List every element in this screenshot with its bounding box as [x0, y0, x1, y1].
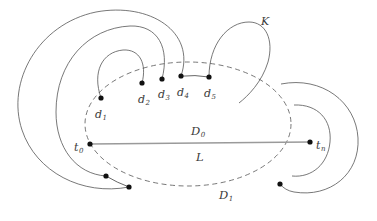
point-lower-2	[126, 184, 131, 189]
label-D1: D1	[219, 186, 233, 203]
point-t0	[87, 141, 92, 146]
point-tn	[307, 139, 312, 144]
diagram-canvas	[0, 0, 377, 221]
label-L-base: L	[196, 150, 204, 164]
label-K: K	[261, 12, 270, 29]
point-lower-1	[103, 173, 108, 178]
label-d2-sub: 2	[145, 99, 150, 107]
label-L-sub	[204, 157, 205, 165]
label-d5-base: d	[204, 87, 211, 100]
loop-k-path	[209, 22, 270, 103]
label-t0: t0	[74, 138, 83, 155]
label-d3-sub: 3	[165, 94, 170, 102]
chord-line-L	[90, 142, 310, 144]
point-d2	[139, 80, 144, 85]
label-tn-sub: n	[320, 145, 325, 153]
label-D1-sub: 1	[228, 195, 233, 203]
label-D0: D0	[191, 122, 205, 139]
boundary-solid-segment-lower-left	[106, 176, 129, 187]
label-d1: d1	[95, 105, 107, 122]
figure-container: K d1 d2 d3 d4 d5 t0 tn D0 L D1	[0, 0, 377, 221]
loop-k-group	[209, 22, 270, 103]
label-d5-sub: 5	[211, 93, 216, 101]
label-L: L	[196, 148, 204, 165]
point-d3	[159, 76, 164, 81]
left-arc-inner	[98, 50, 144, 98]
label-d3-base: d	[158, 88, 165, 101]
label-d2: d2	[138, 90, 150, 107]
label-K-sub	[269, 21, 270, 29]
label-D0-sub: 0	[200, 131, 205, 139]
label-d3: d3	[158, 85, 170, 102]
label-tn: tn	[316, 136, 325, 153]
chord-group	[90, 142, 310, 144]
point-d1	[98, 95, 103, 100]
label-d1-sub: 1	[102, 114, 107, 122]
boundary-solid-segment-d4-d5	[181, 76, 209, 77]
boundary-ellipse-dashed	[85, 62, 291, 186]
label-d2-base: d	[138, 93, 145, 106]
label-K-base: K	[261, 15, 269, 28]
label-D1-base: D	[219, 188, 228, 202]
point-d5	[206, 74, 211, 79]
label-d5: d5	[204, 84, 216, 101]
label-D0-base: D	[191, 124, 200, 138]
point-lower-3	[277, 181, 282, 186]
label-d4: d4	[177, 83, 189, 100]
label-d1-base: d	[95, 108, 102, 121]
label-d4-base: d	[177, 86, 184, 99]
label-d4-sub: 4	[184, 92, 189, 100]
label-t0-sub: 0	[78, 147, 83, 155]
boundary-ellipse-group	[85, 62, 291, 187]
point-d4	[178, 73, 183, 78]
